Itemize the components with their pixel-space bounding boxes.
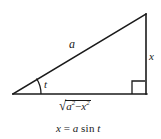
triangle-diagram xyxy=(0,0,161,139)
equation-argument: t xyxy=(97,122,100,134)
hypotenuse-label: a xyxy=(69,38,75,50)
angle-arc xyxy=(37,79,42,95)
radicand-exponent-x: 2 xyxy=(86,99,89,106)
radicand: a2−x2 xyxy=(65,100,90,112)
equation-coefficient: a xyxy=(73,122,79,134)
equation-function: sin xyxy=(81,122,95,134)
adjacent-side-label: √a2−x2 xyxy=(59,99,91,112)
opposite-side-label: x xyxy=(149,51,154,62)
equation-lhs: x xyxy=(56,122,61,134)
equation-relation: = xyxy=(64,122,71,134)
radical-sign: √ xyxy=(59,98,66,112)
right-angle-marker xyxy=(132,81,145,94)
trig-substitution-figure: a t x √a2−x2 x=asint xyxy=(0,0,161,139)
substitution-equation: x=asint xyxy=(56,123,101,134)
angle-label: t xyxy=(44,79,47,90)
hypotenuse-line xyxy=(13,14,146,94)
